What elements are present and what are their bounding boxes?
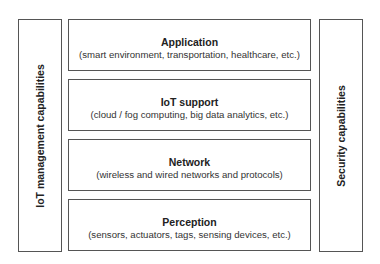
security-capabilities-panel: Security capabilities xyxy=(319,19,363,252)
layer-title: Perception xyxy=(162,216,216,229)
network-layer: Network (wireless and wired networks and… xyxy=(68,139,311,191)
layer-subtitle: (sensors, actuators, tags, sensing devic… xyxy=(88,229,291,241)
perception-layer: Perception (sensors, actuators, tags, se… xyxy=(68,199,311,251)
layer-subtitle: (cloud / fog computing, big data analyti… xyxy=(91,109,289,121)
iot-support-layer: IoT support (cloud / fog computing, big … xyxy=(68,79,311,131)
security-capabilities-label: Security capabilities xyxy=(335,85,347,187)
layer-title: Application xyxy=(161,36,218,49)
layer-title: IoT support xyxy=(161,96,219,109)
layer-subtitle: (smart environment, transportation, heal… xyxy=(79,49,300,61)
layer-subtitle: (wireless and wired networks and protoco… xyxy=(96,169,283,181)
iot-management-capabilities-panel: IoT management capabilities xyxy=(18,19,62,252)
application-layer: Application (smart environment, transpor… xyxy=(68,19,311,71)
layer-title: Network xyxy=(169,156,210,169)
iot-management-capabilities-label: IoT management capabilities xyxy=(34,64,46,208)
